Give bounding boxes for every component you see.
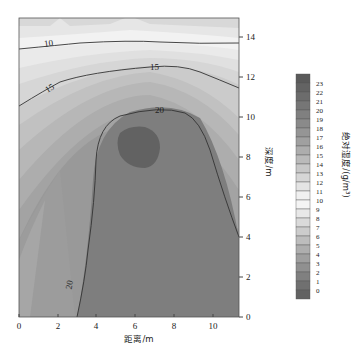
colorbar-tick: 7: [316, 224, 320, 232]
colorbar-tick: 10: [316, 197, 324, 205]
y-tick-label: 10: [246, 112, 256, 122]
colorbar-tick: 5: [316, 242, 320, 250]
contour-chart: 10 15 15 20 20 0 2 4 6 8 10 距离/m 0 2 4 6: [0, 0, 361, 357]
colorbar-tick: 9: [316, 206, 320, 214]
x-axis: 0 2 4 6 8 10 距离/m: [17, 314, 218, 344]
colorbar-tick: 13: [316, 170, 324, 178]
colorbar-tick: 11: [316, 188, 323, 196]
x-tick-label: 0: [17, 321, 22, 331]
colorbar-tick: 2: [316, 269, 320, 277]
y-tick-label: 8: [246, 152, 251, 162]
colorbar-label: 绝对湿度/(g/m³): [341, 132, 351, 197]
plot-area: [19, 16, 239, 317]
y-axis: 0 2 4 6 8 10 12 14 深度/m: [239, 32, 274, 322]
y-tick-label: 4: [246, 232, 251, 242]
colorbar-tick: 14: [316, 161, 324, 169]
y-tick-label: 6: [246, 192, 251, 202]
x-axis-label: 距离/m: [124, 334, 153, 344]
y-axis-label: 深度/m: [264, 147, 274, 176]
colorbar-tick: 3: [316, 260, 320, 268]
x-tick-label: 10: [209, 321, 219, 331]
colorbar-tick: 22: [316, 89, 324, 97]
colorbar-tick: 0: [316, 287, 320, 295]
colorbar-tick: 4: [316, 251, 320, 259]
x-tick-label: 2: [56, 321, 61, 331]
svg-text:15: 15: [150, 62, 160, 72]
svg-text:20: 20: [155, 105, 165, 115]
colorbar-tick: 15: [316, 152, 324, 160]
colorbar-tick: 12: [316, 179, 324, 187]
colorbar-tick: 1: [316, 278, 320, 286]
colorbar-tick: 19: [316, 116, 324, 124]
x-tick-label: 8: [172, 321, 177, 331]
colorbar-tick: 23: [316, 80, 324, 88]
colorbar-tick: 16: [316, 143, 324, 151]
colorbar-tick: 18: [316, 125, 324, 133]
x-tick-label: 4: [94, 321, 99, 331]
y-tick-label: 12: [246, 72, 255, 82]
colorbar: 23 22 21 20 19 18 17 16 15 14 13 12 11 1…: [296, 74, 351, 299]
y-tick-label: 14: [246, 32, 256, 42]
colorbar-tick: 21: [316, 98, 324, 106]
colorbar-tick: 6: [316, 233, 320, 241]
colorbar-tick: 8: [316, 215, 320, 223]
colorbar-tick: 20: [316, 107, 324, 115]
x-tick-label: 6: [133, 321, 138, 331]
y-tick-label: 2: [246, 272, 251, 282]
y-tick-label: 0: [246, 312, 251, 322]
colorbar-tick: 17: [316, 134, 324, 142]
